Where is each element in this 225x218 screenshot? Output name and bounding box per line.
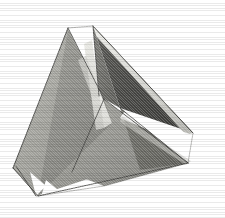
intersecting-triangles-sculpture — [0, 0, 225, 218]
figure-container: Intersecting Triangles Sculpture three i… — [0, 0, 225, 218]
